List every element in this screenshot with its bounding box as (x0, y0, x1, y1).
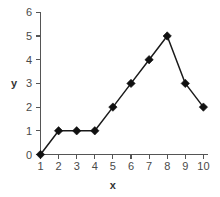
y-tick-label: 2 (26, 101, 32, 113)
x-tick-label: 1 (37, 160, 43, 172)
line-chart-figure: 0 1 2 3 4 5 6 1 2 3 4 5 6 (0, 0, 220, 197)
x-tick-label: 10 (197, 160, 209, 172)
y-tick-label: 6 (26, 6, 32, 18)
x-axis-title: x (110, 179, 117, 191)
x-tick-label: 4 (92, 160, 98, 172)
y-tick-label: 3 (26, 77, 32, 89)
x-axis-tick-labels: 1 2 3 4 5 6 7 8 9 10 (37, 160, 209, 172)
x-tick-label: 2 (56, 160, 62, 172)
y-tick-label: 0 (26, 149, 32, 161)
x-tick-label: 5 (110, 160, 116, 172)
chart-canvas: 0 1 2 3 4 5 6 1 2 3 4 5 6 (0, 0, 220, 197)
x-tick-label: 7 (146, 160, 152, 172)
x-tick-label: 9 (182, 160, 188, 172)
y-axis-tick-labels: 0 1 2 3 4 5 6 (26, 6, 32, 160)
x-tick-label: 3 (74, 160, 80, 172)
x-tick-label: 6 (128, 160, 134, 172)
y-tick-label: 5 (26, 30, 32, 42)
series-line (41, 36, 204, 155)
x-tick-label: 8 (164, 160, 170, 172)
data-point-marker (73, 127, 81, 135)
data-series-group (36, 32, 207, 159)
y-tick-label: 4 (26, 54, 32, 66)
y-axis-title: y (11, 77, 18, 89)
y-tick-label: 1 (26, 125, 32, 137)
x-axis-ticks (41, 155, 204, 160)
y-axis-ticks (36, 12, 41, 154)
